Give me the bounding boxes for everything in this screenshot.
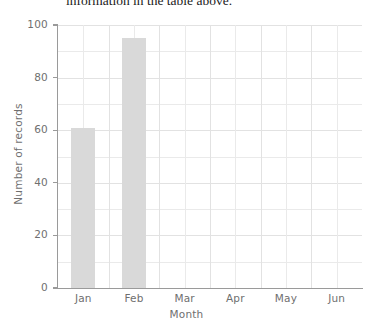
y-tick-mark: [53, 130, 58, 131]
gridline-vertical-major: [159, 25, 160, 288]
gridline-vertical-major: [311, 25, 312, 288]
x-tick-label-feb: Feb: [109, 292, 160, 304]
y-tick-label-100: 100: [27, 18, 48, 30]
y-tick-label-80: 80: [34, 71, 48, 83]
x-tick-label-jun: Jun: [311, 292, 362, 304]
bar-feb[interactable]: [122, 38, 146, 288]
y-tick-mark: [53, 77, 58, 78]
gridline-vertical-major: [210, 25, 211, 288]
y-tick-label-60: 60: [34, 123, 48, 135]
x-tick-label-apr: Apr: [210, 292, 261, 304]
bar-chart-figure: Number of records Month 020406080100JanF…: [0, 0, 373, 325]
bar-jan[interactable]: [71, 128, 95, 288]
y-tick-label-20: 20: [34, 228, 48, 240]
gridline-vertical-major: [261, 25, 262, 288]
y-tick-mark: [53, 24, 58, 25]
y-tick-mark: [53, 235, 58, 236]
gridline-vertical-minor: [235, 25, 236, 288]
y-axis-title: Number of records: [12, 74, 24, 234]
x-axis-line: [58, 288, 363, 289]
gridline-vertical-minor: [337, 25, 338, 288]
y-tick-mark: [53, 287, 58, 288]
gridline-vertical-minor: [185, 25, 186, 288]
x-tick-label-mar: Mar: [159, 292, 210, 304]
gridline-vertical-major: [109, 25, 110, 288]
y-axis-line: [57, 24, 58, 289]
plot-area: [58, 25, 362, 288]
x-tick-label-may: May: [261, 292, 312, 304]
y-tick-label-0: 0: [41, 281, 48, 293]
y-tick-label-40: 40: [34, 176, 48, 188]
gridline-vertical-minor: [286, 25, 287, 288]
x-axis-title: Month: [0, 308, 373, 320]
x-tick-label-jan: Jan: [58, 292, 109, 304]
y-tick-mark: [53, 182, 58, 183]
